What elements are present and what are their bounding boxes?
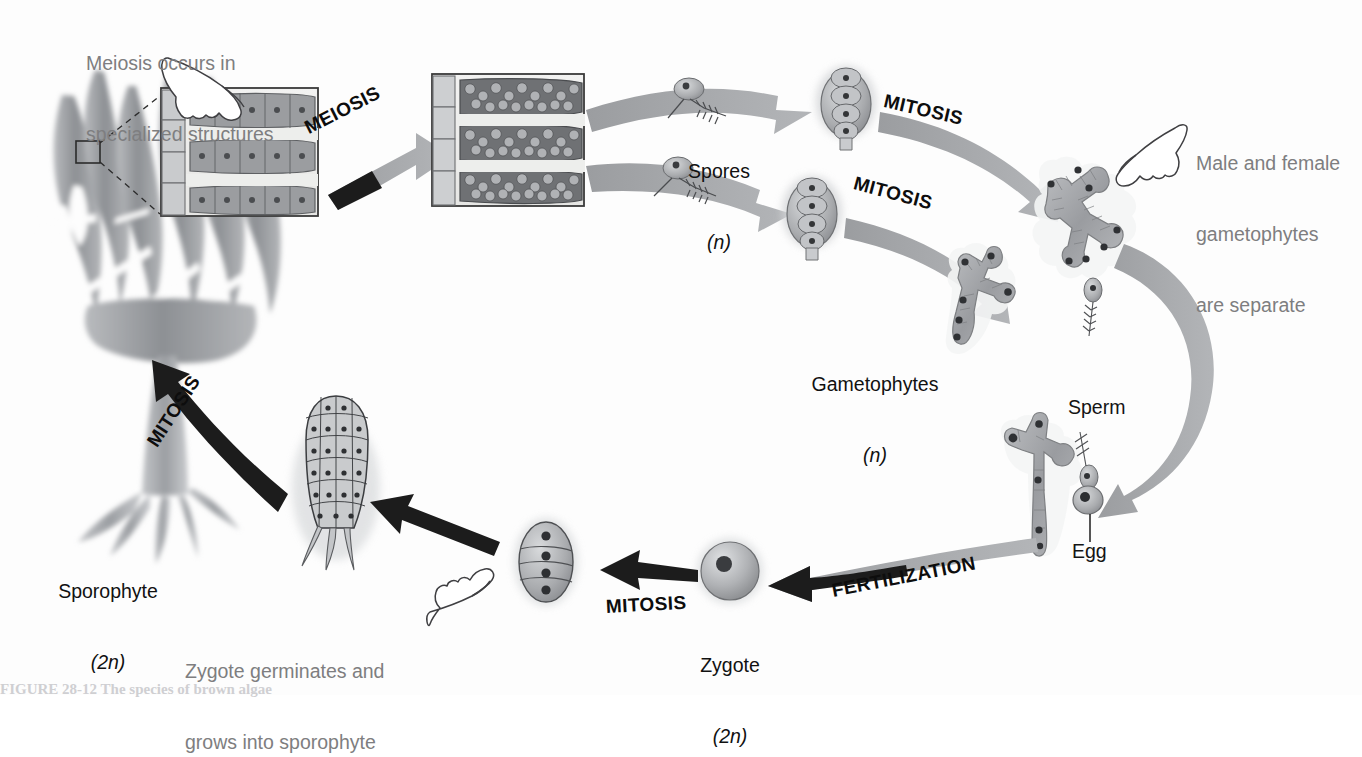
sperm-released-upper (1083, 278, 1102, 336)
process-label-mitosis-upper: MITOSIS (882, 90, 965, 130)
label-sporophyte: Sporophyte (2n) (28, 532, 188, 698)
germinating-spore-upper (816, 66, 876, 150)
label-gametophytes-ploidy: (n) (790, 444, 960, 468)
label-zygote-ploidy: (2n) (678, 725, 782, 749)
annotation-meiosis-line1: Meiosis occurs in (86, 52, 274, 76)
process-label-meiosis: MEIOSIS (301, 82, 384, 139)
sperm-approaching (1075, 432, 1098, 489)
label-gametophytes: Gametophytes (n) (790, 325, 960, 491)
annotation-gametophyte-note: Male and female gametophytes are separat… (1196, 104, 1340, 342)
young-sporophyte (292, 396, 380, 570)
annotation-gametophyte-line2: gametophytes (1196, 223, 1340, 247)
label-gametophytes-name: Gametophytes (790, 373, 960, 397)
label-egg: Egg (1072, 540, 1107, 564)
annotation-meiosis-note: Meiosis occurs in specialized structures (86, 4, 274, 170)
label-spores-name: Spores (664, 160, 774, 184)
annotation-gametophyte-line3: are separate (1196, 294, 1340, 318)
annotation-zygote-line1: Zygote germinates and (185, 660, 384, 684)
meiosis-arrow (328, 133, 452, 210)
label-spores-ploidy: (n) (664, 231, 774, 255)
label-sporophyte-name: Sporophyte (28, 580, 188, 604)
sporangia-box-haploid (432, 74, 585, 206)
label-zygote-name: Zygote (678, 654, 782, 678)
process-label-fertilization: FERTILIZATION (830, 552, 978, 602)
process-label-mitosis-lower: MITOSIS (851, 172, 935, 214)
embryo-four-cell (514, 518, 578, 606)
figure-caption: FIGURE 28-12 The species of brown algae (0, 681, 1362, 697)
annotation-zygote-line2: grows into sporophyte (185, 731, 384, 755)
label-sporophyte-ploidy: (2n) (28, 651, 188, 675)
egg-cell (1073, 486, 1103, 542)
female-gametophyte-with-egg (1001, 413, 1103, 557)
pointing-hand-icon (427, 569, 494, 626)
zygote-cell (697, 538, 763, 604)
process-label-mitosis-sporophyte: MITOSIS (143, 371, 205, 451)
label-spores: Spores (n) (664, 112, 774, 278)
annotation-meiosis-line2: specialized structures (86, 123, 274, 147)
mitosis-arrow-embryo (600, 550, 698, 590)
germinating-spore-lower (782, 176, 842, 260)
mitosis-arrow-lower (844, 218, 1010, 324)
mitosis-arrow-to-embryo (370, 494, 500, 556)
pointing-hand-icon (1116, 125, 1187, 186)
mitosis-arrow-sporophyte (152, 360, 288, 512)
label-sperm: Sperm (1068, 396, 1125, 420)
male-gametophyte (1033, 157, 1137, 336)
annotation-gametophyte-line1: Male and female (1196, 152, 1340, 176)
process-label-mitosis-embryo: MITOSIS (605, 592, 687, 618)
